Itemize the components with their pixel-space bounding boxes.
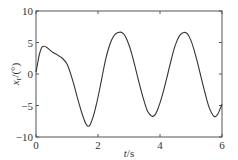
y-tick-label: −5 (21, 100, 33, 112)
x-tick-label: 2 (95, 139, 101, 151)
y-axis-label-unit: /(°) (9, 62, 22, 77)
y-tick-label: 0 (28, 68, 34, 80)
y-tick-label: 5 (28, 37, 34, 49)
x-axis-label: t/s (124, 147, 134, 159)
plot-frame (36, 11, 222, 137)
y-axis-label: xr/(°) (9, 62, 23, 86)
series-line-x-r (36, 32, 222, 126)
x-tick-label: 0 (33, 139, 39, 151)
plot-border (36, 11, 222, 137)
line-chart: 1050−5−10 0246 t/s xr/(°) (0, 0, 238, 160)
x-axis-label-unit: /s (127, 147, 134, 159)
series-layer (36, 32, 222, 126)
y-axis-ticks: 1050−5−10 (16, 5, 222, 143)
x-tick-label: 4 (157, 139, 163, 151)
y-tick-label: 10 (22, 5, 34, 17)
y-tick-label: −10 (16, 131, 34, 143)
x-axis-ticks: 0246 (33, 11, 225, 151)
x-tick-label: 6 (219, 139, 225, 151)
